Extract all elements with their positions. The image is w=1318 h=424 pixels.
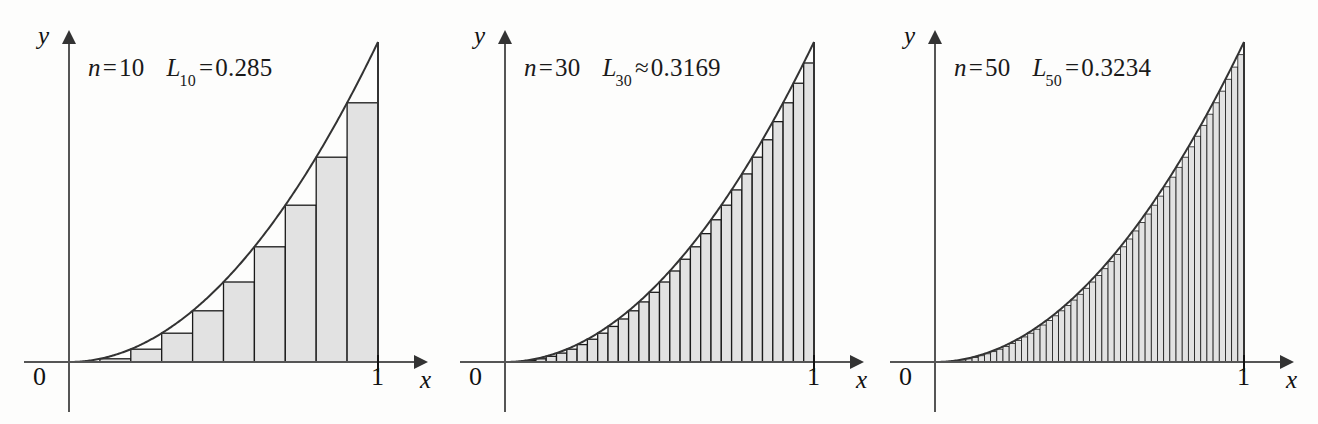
riemann-bar — [701, 234, 711, 362]
riemann-bar — [224, 282, 255, 362]
sum-subscript: 10 — [180, 72, 196, 89]
x-axis-label: x — [420, 366, 431, 394]
riemann-bar — [1188, 147, 1194, 362]
sum-symbol: L — [166, 54, 180, 81]
origin-label: 0 — [469, 362, 482, 392]
riemann-bar — [1108, 262, 1114, 362]
riemann-bar — [1077, 294, 1083, 362]
riemann-bar — [1170, 177, 1176, 362]
riemann-bar — [1207, 114, 1213, 362]
riemann-bar — [1028, 333, 1034, 362]
riemann-bar — [1071, 300, 1077, 362]
riemann-bar — [347, 103, 378, 362]
riemann-bar — [793, 83, 803, 362]
riemann-bar — [1040, 325, 1046, 362]
riemann-bar — [587, 339, 597, 362]
riemann-bar — [991, 352, 997, 362]
y-axis-label: y — [904, 22, 915, 50]
riemann-bar — [752, 157, 762, 362]
riemann-bar — [162, 333, 193, 362]
y-axis-arrowhead — [62, 30, 76, 44]
riemann-bar — [1164, 187, 1170, 362]
n-equals: = — [967, 54, 985, 81]
riemann-bar — [193, 311, 224, 362]
n-equals: = — [101, 54, 119, 81]
riemann-bar — [1139, 223, 1145, 362]
panel-n10-annotation: n=10L10=0.285 — [88, 54, 273, 86]
riemann-bar — [1176, 167, 1182, 362]
riemann-bar — [1009, 344, 1015, 362]
riemann-bar — [1090, 282, 1096, 362]
sum-subscript: 50 — [1046, 72, 1062, 89]
riemann-bar — [577, 345, 587, 362]
sum-subscript: 30 — [616, 72, 632, 89]
riemann-bar — [1120, 247, 1126, 362]
riemann-bar — [732, 190, 742, 362]
riemann-bar — [690, 247, 700, 362]
n-symbol: n — [524, 54, 537, 81]
riemann-bar — [1046, 321, 1052, 362]
sum-symbol: L — [1032, 54, 1046, 81]
riemann-bar — [316, 157, 347, 362]
riemann-bar — [680, 259, 690, 362]
riemann-bar — [1219, 91, 1225, 362]
riemann-bar — [1201, 125, 1207, 362]
riemann-bar — [1034, 329, 1040, 362]
riemann-bar — [285, 205, 316, 362]
riemann-bar — [1133, 231, 1139, 362]
panel-n50-bars — [941, 55, 1244, 362]
riemann-bar — [997, 349, 1003, 362]
riemann-bar — [1114, 254, 1120, 362]
sum-relation: = — [1063, 54, 1081, 81]
riemann-bar — [1127, 239, 1133, 362]
x-tick-label-one: 1 — [807, 362, 820, 392]
y-axis-arrowhead — [498, 30, 512, 44]
n-symbol: n — [954, 54, 967, 81]
n-value: 10 — [119, 54, 144, 81]
riemann-bar — [131, 349, 162, 362]
riemann-bar — [1096, 275, 1102, 362]
riemann-bar — [1003, 347, 1009, 362]
riemann-bar — [1232, 67, 1238, 362]
y-axis-label: y — [474, 22, 485, 50]
origin-label: 0 — [33, 362, 46, 392]
n-equals: = — [537, 54, 555, 81]
riemann-bar — [618, 319, 628, 362]
riemann-bar — [649, 292, 659, 362]
sum-relation: = — [197, 54, 215, 81]
riemann-bar — [742, 174, 752, 362]
riemann-bar — [1052, 316, 1058, 362]
riemann-sum-figure: n=10L10=0.285 y x 0 1 n=30L30≈0.3169 y x… — [0, 0, 1318, 424]
n-value: 30 — [555, 54, 580, 81]
riemann-bar — [1145, 214, 1151, 362]
riemann-bar — [629, 311, 639, 362]
riemann-bar — [711, 220, 721, 362]
panel-n50-annotation: n=50L50=0.3234 — [954, 54, 1151, 86]
riemann-bar — [670, 271, 680, 362]
y-axis-arrowhead — [928, 30, 942, 44]
riemann-bar — [1225, 79, 1231, 362]
sum-relation: ≈ — [633, 54, 651, 81]
riemann-bar — [254, 247, 285, 362]
panel-n10: n=10L10=0.285 y x 0 1 — [0, 0, 440, 424]
n-value: 50 — [985, 54, 1010, 81]
panel-n30-bars — [515, 63, 814, 362]
x-tick-label-one: 1 — [1237, 362, 1250, 392]
panel-n30-annotation: n=30L30≈0.3169 — [524, 54, 721, 86]
n-symbol: n — [88, 54, 101, 81]
panel-n10-bars — [100, 103, 378, 362]
sum-value: 0.3169 — [651, 54, 721, 81]
riemann-bar — [557, 353, 567, 362]
x-tick-label-one: 1 — [371, 362, 384, 392]
riemann-bar — [804, 63, 814, 362]
riemann-bar — [1022, 337, 1028, 362]
riemann-bar — [1065, 306, 1071, 362]
panel-n30: n=30L30≈0.3169 y x 0 1 — [436, 0, 876, 424]
sum-symbol: L — [602, 54, 616, 81]
riemann-bar — [984, 354, 990, 362]
riemann-bar — [1083, 288, 1089, 362]
sum-value: 0.3234 — [1081, 54, 1151, 81]
sum-value: 0.285 — [215, 54, 272, 81]
riemann-bar — [1151, 205, 1157, 362]
riemann-bar — [773, 122, 783, 362]
